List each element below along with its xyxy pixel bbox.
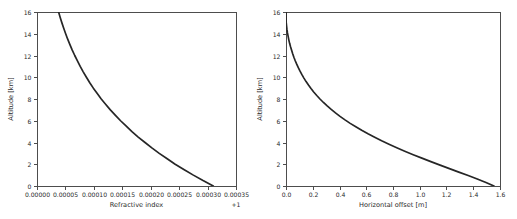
y-tick-label: 12 [273,53,281,60]
x-axis-label: Refractive index [110,201,164,209]
x-tick-label: 0.00030 [196,191,221,198]
y-tick-label: 8 [28,96,32,103]
x-tick-label: 0.8 [389,191,399,198]
y-tick-label: 2 [277,161,281,168]
y-tick-label: 8 [277,96,281,103]
left-plot-svg: 0.000000.000050.000100.000150.000200.000… [0,0,258,219]
right-plot-panel: 0.00.20.40.60.81.01.21.41.60246810121416… [258,0,517,219]
x-tick-label: 0.00005 [53,191,78,198]
x-tick-label: 0.00000 [25,191,50,198]
y-tick-label: 14 [273,31,281,38]
x-tick-label: 0.0 [282,191,292,198]
y-axis-label: Altitude [km] [7,77,15,120]
x-tick-label: 0.00025 [167,191,192,198]
y-tick-label: 2 [28,161,32,168]
x-tick-label: 0.00035 [224,191,249,198]
x-tick-label: 0.2 [309,191,319,198]
x-tick-label: 1.6 [496,191,506,198]
y-tick-label: 10 [273,74,281,81]
y-tick-label: 16 [24,9,32,16]
y-tick-label: 10 [24,74,32,81]
y-tick-label: 16 [273,9,281,16]
y-tick-label: 4 [28,140,32,147]
x-axis-label: Horizontal offset [m] [359,201,427,209]
x-tick-label: 1.0 [416,191,426,198]
y-tick-label: 0 [277,183,281,190]
y-tick-label: 6 [28,118,32,125]
matplotlib-figure: 0.000000.000050.000100.000150.000200.000… [0,0,517,219]
x-tick-label: 0.00020 [139,191,164,198]
y-tick-label: 6 [277,118,281,125]
x-tick-label: 0.00015 [110,191,135,198]
y-axis-label: Altitude [km] [256,77,264,120]
x-tick-label: 1.2 [442,191,452,198]
right-plot-svg: 0.00.20.40.60.81.01.21.41.60246810121416… [258,0,517,219]
x-tick-label: 0.00010 [82,191,107,198]
y-tick-label: 12 [24,53,32,60]
x-tick-label: 0.6 [362,191,372,198]
x-tick-label: 1.4 [469,191,479,198]
x-axis-offset-label: +1 [232,201,241,208]
y-tick-label: 4 [277,140,281,147]
left-plot-panel: 0.000000.000050.000100.000150.000200.000… [0,0,258,219]
y-tick-label: 14 [24,31,32,38]
y-tick-label: 0 [28,183,32,190]
x-tick-label: 0.4 [336,191,346,198]
